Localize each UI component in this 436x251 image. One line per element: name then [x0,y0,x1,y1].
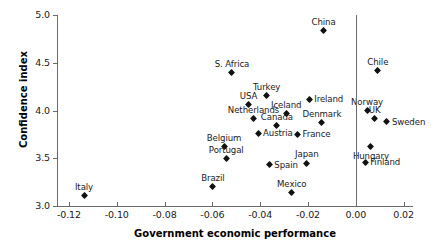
point-label: Belgium [207,134,242,143]
x-tick-label: -0.10 [97,209,137,220]
point-marker-icon [288,189,295,196]
point-label: S. Africa [215,60,250,69]
y-tick-label: 3.5 [24,152,50,163]
point-label: Canada [261,113,293,122]
x-tick-label: 0.00 [336,209,376,220]
y-tick [53,206,57,207]
point-marker-icon [374,67,381,74]
x-tick-label: -0.12 [49,209,89,220]
x-tick-label: -0.04 [240,209,280,220]
scatter-chart: Confidence index Government economic per… [0,0,436,251]
point-label: Portugal [209,146,244,155]
x-tick-label: -0.02 [288,209,328,220]
point-label: Brazil [201,174,224,183]
point-marker-icon [266,161,273,168]
point-marker-icon [320,27,327,34]
point-label: Austria [263,129,293,138]
point-label: Sweden [392,118,425,127]
point-label: Turkey [253,83,280,92]
point-marker-icon [209,183,216,190]
point-label: Mexico [277,180,306,189]
x-tick-label: -0.06 [192,209,232,220]
point-marker-icon [80,192,87,199]
point-label: Ireland [314,95,343,104]
point-marker-icon [303,159,310,166]
point-marker-icon [223,155,230,162]
point-marker-icon [250,115,257,122]
y-tick-label: 3.0 [24,200,50,211]
point-label: France [302,130,330,139]
point-label: Chile [367,58,388,67]
point-label: China [312,18,336,27]
plot-area: ChinaChileS. AfricaTurkeyIrelandUSANorwa… [57,15,412,206]
point-label: Japan [295,150,318,159]
point-label: USA [240,92,257,101]
y-tick-label: 5.0 [24,9,50,20]
point-label: Finland [370,158,400,167]
point-label: UK [369,106,381,115]
x-axis-title: Government economic performance [57,228,413,239]
y-tick-label: 4.0 [24,105,50,116]
point-marker-icon [383,118,390,125]
point-marker-icon [263,92,270,99]
point-marker-icon [228,69,235,76]
x-axis-line [57,206,413,207]
point-marker-icon [318,119,325,126]
zero-reference-line [356,15,357,206]
point-marker-icon [255,130,262,137]
point-marker-icon [294,131,301,138]
point-marker-icon [367,143,374,150]
x-tick-label: -0.08 [145,209,185,220]
point-marker-icon [306,95,313,102]
y-tick-label: 4.5 [24,57,50,68]
x-tick-label: 0.02 [384,209,424,220]
point-label: Spain [274,161,298,170]
point-marker-icon [371,115,378,122]
point-label: Denmark [302,110,341,119]
point-label: Italy [75,183,93,192]
